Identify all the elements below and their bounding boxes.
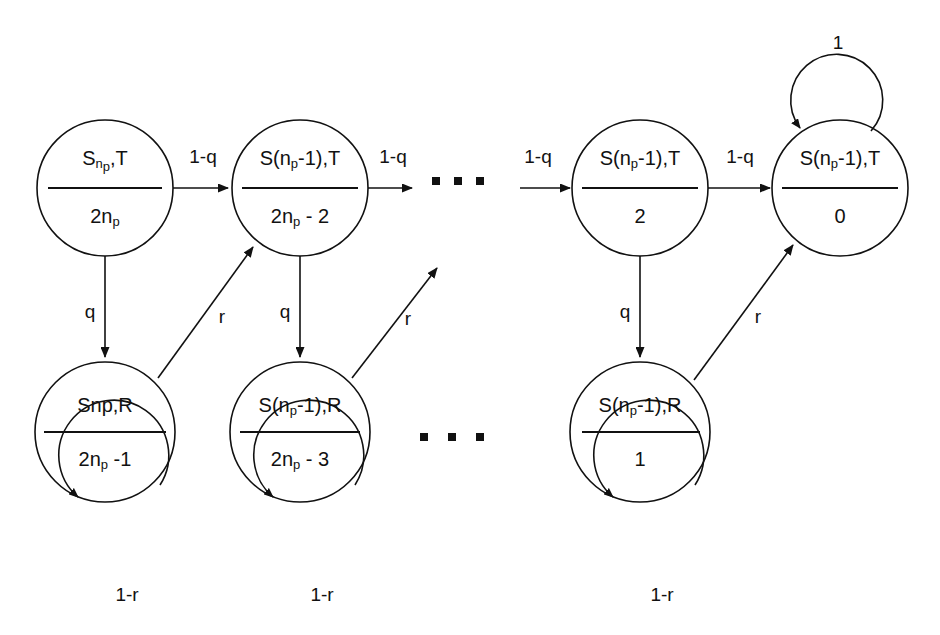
node-top-4[interactable]: S(np-1),T 0	[772, 120, 908, 256]
node-top-4-denominator: 0	[834, 205, 845, 227]
node-top-2[interactable]: S(np-1),T 2np - 2	[232, 120, 368, 256]
edge-label-ellipsis-to-top3: 1-q	[524, 146, 551, 167]
node-top-3-denominator: 2	[634, 205, 645, 227]
node-top-2-denominator: 2np - 2	[271, 205, 329, 229]
edge-label-self-loop-bottom-1: 1-r	[115, 584, 139, 605]
ellipsis-top-row	[432, 177, 484, 185]
edge-label-top3-to-top4: 1-q	[726, 146, 753, 167]
edge-label-r-3: r	[755, 306, 762, 327]
node-bottom-3-denominator: 1	[634, 448, 645, 470]
node-top-4-numerator: S(np-1),T	[800, 147, 881, 171]
edge-label-r-1: r	[219, 306, 226, 327]
edge-label-self-loop-top-4: 1	[833, 32, 844, 53]
ellipsis-dot	[476, 433, 484, 441]
edge-label-r-2: r	[405, 308, 412, 329]
edge-bottom1-to-top2[interactable]	[158, 247, 253, 378]
node-top-3[interactable]: S(np-1),T 2	[572, 120, 708, 256]
edge-label-self-loop-bottom-2: 1-r	[310, 584, 334, 605]
ellipsis-dot	[420, 433, 428, 441]
state-transition-diagram: Snp,T 2np S(np-1),T 2np - 2 S(np-1),T 2 …	[0, 0, 940, 635]
ellipsis-dot	[476, 177, 484, 185]
node-top-2-numerator: S(np-1),T	[260, 147, 341, 171]
ellipsis-dot	[432, 177, 440, 185]
ellipsis-dot	[448, 433, 456, 441]
node-bottom-3[interactable]: S(np-1),R 1	[570, 362, 710, 502]
node-bottom-2-denominator: 2np - 3	[271, 448, 329, 472]
edge-label-top2-to-ellipsis: 1-q	[379, 146, 406, 167]
edge-bottom3-to-top4[interactable]	[694, 245, 793, 380]
edge-label-q-1: q	[85, 301, 96, 322]
node-bottom-2[interactable]: S(np-1),R 2np - 3	[230, 362, 370, 502]
ellipsis-dot	[454, 177, 462, 185]
node-bottom-1[interactable]: Snp,R 2np -1	[35, 362, 175, 502]
node-top-1[interactable]: Snp,T 2np	[37, 120, 173, 256]
state-diagram-canvas: Snp,T 2np S(np-1),T 2np - 2 S(np-1),T 2 …	[0, 0, 940, 635]
edge-label-q-2: q	[280, 301, 291, 322]
node-bottom-1-numerator: Snp,R	[77, 394, 133, 416]
ellipsis-bottom-row	[420, 433, 484, 441]
edge-bottom2-to-next[interactable]	[352, 268, 437, 378]
edge-label-top1-to-top2: 1-q	[189, 146, 216, 167]
edge-label-self-loop-bottom-3: 1-r	[650, 584, 674, 605]
node-top-3-numerator: S(np-1),T	[600, 147, 681, 171]
edge-label-q-3: q	[620, 301, 631, 322]
